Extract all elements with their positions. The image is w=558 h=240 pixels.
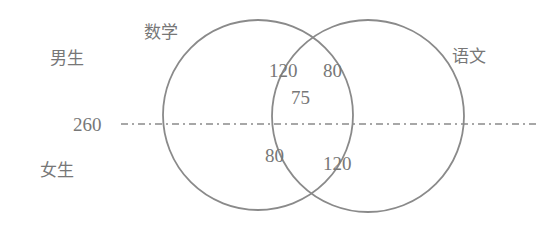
math-circle [163, 20, 353, 210]
chinese-circle [272, 20, 464, 212]
region-boys-left-value: 120 [269, 61, 298, 80]
region-center-value: 75 [291, 88, 310, 107]
chinese-set-label: 语文 [452, 48, 486, 65]
region-girls-right-value: 120 [323, 154, 352, 173]
math-set-label: 数学 [144, 24, 178, 41]
region-boys-right-value: 80 [323, 61, 342, 80]
divider-value: 260 [73, 115, 102, 134]
region-girls-left-value: 80 [265, 146, 284, 165]
boys-label: 男生 [50, 50, 84, 67]
girls-label: 女生 [40, 162, 74, 179]
